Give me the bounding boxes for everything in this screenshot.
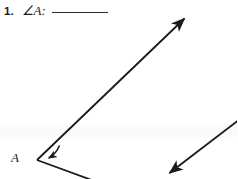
angle-figure	[0, 0, 237, 179]
upper-ray	[37, 19, 185, 161]
vertex-label-a: A	[11, 150, 19, 166]
worksheet-page: 1. ∠A: A	[0, 0, 237, 179]
lower-ray	[37, 160, 93, 179]
secondary-ray	[170, 119, 238, 173]
